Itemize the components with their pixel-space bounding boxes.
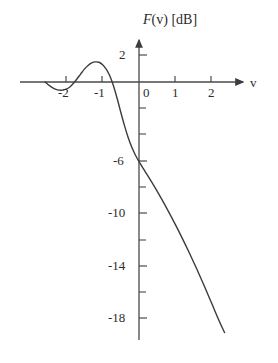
x-tick-label-2: 0 — [143, 86, 150, 99]
y-tick-label-1: -6 — [113, 154, 124, 167]
x-tick-label-3: 1 — [172, 86, 179, 99]
x-tick-label-4: 2 — [208, 86, 215, 99]
y-axis-ticks-minor — [139, 108, 146, 292]
y-tick-label-2: -10 — [108, 206, 125, 219]
chart-figure: F(v) [dB] — [0, 0, 278, 363]
x-tick-label-0: -2 — [58, 86, 69, 99]
y-tick-label-0: 2 — [119, 48, 126, 61]
plot-area — [0, 0, 278, 363]
data-curve-f-of-v — [45, 62, 224, 333]
x-axis-label: v — [250, 76, 257, 89]
y-tick-label-3: -14 — [108, 259, 125, 272]
y-tick-label-4: -18 — [108, 311, 125, 324]
x-tick-label-1: -1 — [94, 86, 105, 99]
